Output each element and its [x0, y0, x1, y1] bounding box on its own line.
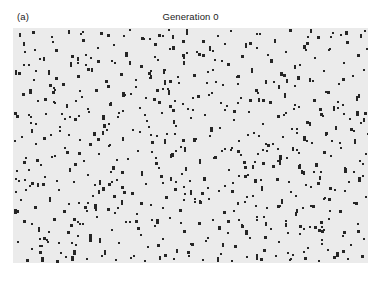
- page-title: Generation 0: [13, 11, 368, 23]
- figure-header: (a) Generation 0: [0, 0, 379, 28]
- scatter-plot-canvas: [13, 28, 368, 263]
- scatter-plot-area: [13, 28, 368, 263]
- figure-panel: (a) Generation 0: [0, 0, 379, 289]
- figure-bottom-margin: [0, 263, 379, 289]
